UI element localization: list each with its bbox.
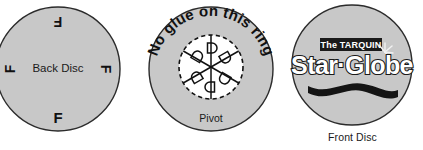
back-disc-mark-bottom: F (53, 109, 62, 126)
front-disc-illustration: The TARQUIN Star·Globe (282, 0, 423, 150)
svg-text:F: F (53, 14, 62, 30)
pivot-disc-group: No glue on this ring (141, 0, 282, 150)
pivot-caption: Pivot (199, 112, 222, 124)
parts-diagram: Back Disc F F F F No glue on this ring (0, 0, 423, 150)
svg-text:F: F (98, 65, 114, 74)
back-disc-mark-right: F (98, 65, 114, 74)
back-disc-mark-top: F (53, 14, 62, 30)
pivot-disc-illustration: No glue on this ring (141, 0, 282, 150)
svg-text:F: F (53, 109, 62, 126)
tarquin-banner-label: The TARQUIN (320, 40, 381, 50)
back-disc-center-label: Back Disc (32, 62, 83, 74)
back-disc-illustration: Back Disc F F F F (0, 0, 141, 150)
back-disc-group: Back Disc F F F F (0, 0, 141, 150)
back-disc-mark-left: F (2, 64, 18, 73)
front-disc-group: The TARQUIN Star·Globe Front Disc (282, 0, 423, 150)
front-disc-caption: Front Disc (282, 131, 423, 143)
svg-text:F: F (2, 64, 18, 73)
star-globe-wordmark: Star·Globe (291, 51, 413, 79)
